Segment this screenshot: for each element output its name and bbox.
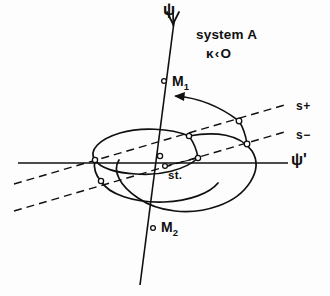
st-label: st. (168, 170, 182, 182)
diagram-canvas (0, 0, 330, 296)
node-st (163, 164, 168, 169)
s-minus-label: s− (296, 129, 311, 141)
psi-axis-line (140, 22, 174, 285)
node-inner-upper-right (186, 133, 191, 138)
inner-right-chord (189, 136, 198, 158)
rotation-arrow-head (174, 92, 185, 101)
inner-ellipse-lower-arc (101, 181, 218, 202)
system-label: system A (196, 28, 257, 42)
kappa-condition-label: κ‹O (206, 47, 232, 61)
rotation-arrow-path (176, 96, 239, 121)
m2-label: M2 (161, 220, 178, 237)
node-inner-left-upper (92, 157, 97, 162)
psi-axis-label: ψ (163, 2, 175, 18)
m1-label-subscript: 1 (184, 81, 189, 92)
node-inner-lower-right (195, 155, 200, 160)
inner-ellipse-curve (93, 129, 198, 174)
m2-label-text: M (161, 219, 173, 235)
node-outer-s-plus (236, 118, 242, 124)
m1-label: M1 (172, 74, 189, 91)
psi-prime-axis-label: ψ' (291, 152, 307, 168)
node-outer-s-minus (244, 141, 250, 147)
m1-label-text: M (172, 73, 184, 89)
node-origin (157, 153, 162, 158)
node-m2 (151, 226, 156, 231)
figure-root: system A κ‹O ψ ψ' s+ s− M1 M2 st. (0, 0, 330, 296)
node-inner-left-lower (98, 178, 103, 183)
s-plus-label: s+ (296, 100, 311, 112)
node-m1 (162, 79, 167, 84)
m2-label-subscript: 2 (173, 227, 178, 238)
